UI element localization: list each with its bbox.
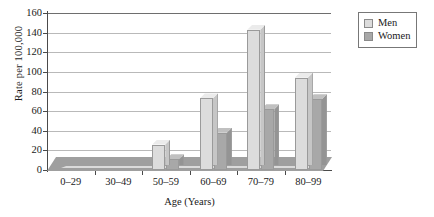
y-tick-mark <box>43 72 47 73</box>
y-tick-mark <box>43 111 47 112</box>
y-axis-tick-labels: 020406080100120140160 <box>12 0 42 217</box>
bar-side-face <box>274 104 279 165</box>
bar-men-60-69 <box>200 98 213 170</box>
y-tick-label: 40 <box>12 126 42 137</box>
legend-swatch-men <box>364 19 373 28</box>
y-tick-label: 60 <box>12 106 42 117</box>
legend-item-women[interactable]: Women <box>364 30 410 43</box>
bar-side-face <box>213 93 218 165</box>
x-tick-mark <box>285 171 286 175</box>
y-tick-label: 140 <box>12 27 42 38</box>
y-tick-label: 120 <box>12 47 42 58</box>
x-tick-mark <box>95 171 96 175</box>
y-tick-mark <box>43 150 47 151</box>
bar-men-70-79 <box>247 30 260 170</box>
legend-label: Women <box>378 31 410 42</box>
bar-front-face <box>295 78 308 170</box>
x-tick-mark <box>237 171 238 175</box>
y-tick-label: 100 <box>12 67 42 78</box>
y-tick-label: 20 <box>12 145 42 156</box>
y-tick-mark <box>43 92 47 93</box>
y-tick-mark <box>43 131 47 132</box>
x-tick-label: 80–99 <box>278 176 338 188</box>
bar-front-face <box>152 145 165 171</box>
bar-side-face <box>308 73 313 165</box>
legend-label: Men <box>378 18 397 29</box>
legend: MenWomen <box>358 12 417 48</box>
bar-side-face <box>260 25 265 165</box>
x-tick-mark <box>142 171 143 175</box>
x-tick-mark <box>190 171 191 175</box>
y-tick-mark <box>43 13 47 14</box>
y-tick-label: 0 <box>12 165 42 176</box>
bar-men-50-59 <box>152 145 165 171</box>
bar-side-face <box>227 128 232 165</box>
x-axis-title: Age (Years) <box>47 196 332 207</box>
bar-front-face <box>200 98 213 170</box>
legend-item-men[interactable]: Men <box>364 17 410 30</box>
bar-side-face <box>322 94 327 165</box>
y-tick-label: 80 <box>12 86 42 97</box>
legend-swatch-women <box>364 32 373 41</box>
bars-layer <box>47 13 332 171</box>
y-tick-label: 160 <box>12 8 42 19</box>
x-axis-tick-labels: 0–2930–4950–5960–6970–7980–99 <box>47 176 332 192</box>
y-tick-mark <box>43 170 47 171</box>
bar-front-face <box>247 30 260 170</box>
y-tick-mark <box>43 52 47 53</box>
bar-men-80-99 <box>295 78 308 170</box>
y-tick-mark <box>43 33 47 34</box>
bar-chart: Rate per 100,000 020406080100120140160 0… <box>0 0 434 217</box>
